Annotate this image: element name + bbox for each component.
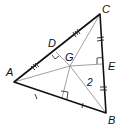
- right-angle-icon-E2: [97, 58, 103, 59]
- segment-GC: [70, 14, 100, 66]
- triangle-sides: [14, 14, 106, 113]
- label-E: E: [108, 60, 116, 72]
- right-angle-markers: [52, 55, 103, 99]
- tick-AB-2: [82, 103, 83, 108]
- tick-BC-C-1: [97, 37, 104, 38]
- triangle-ABC: [14, 14, 106, 113]
- segment-GE: [70, 64, 103, 66]
- label-C: C: [102, 3, 110, 15]
- tick-BC-C-2: [97, 40, 104, 41]
- label-segment-length: 2: [86, 77, 93, 88]
- label-B: B: [108, 114, 115, 126]
- right-angle-icon-D: [52, 55, 59, 59]
- label-D: D: [48, 37, 56, 49]
- segment-GB: [70, 66, 106, 113]
- tick-AB-1: [35, 94, 37, 99]
- segment-GA: [14, 66, 70, 82]
- label-A: A: [5, 66, 13, 78]
- segment-GF: [62, 66, 70, 98]
- label-G: G: [65, 51, 74, 63]
- triangle-diagram: A B C D G E 2: [0, 0, 123, 137]
